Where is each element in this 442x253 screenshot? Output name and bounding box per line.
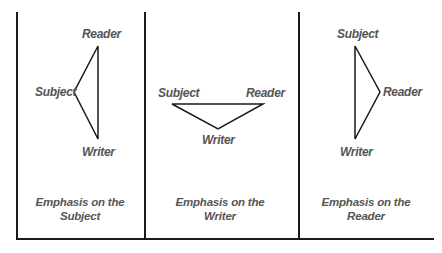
caption-line-1: Emphasis on the [170, 195, 270, 209]
label-writer: Writer [340, 146, 373, 159]
caption-line-2: Writer [170, 209, 270, 223]
label-writer: Writer [202, 134, 235, 147]
label-subject: Subject [35, 86, 76, 99]
label-subject: Subject [337, 28, 378, 41]
caption-line-2: Subject [30, 209, 130, 223]
label-reader: Reader [246, 87, 285, 100]
caption-emphasis-reader: Emphasis on the Reader [316, 195, 416, 223]
caption-line-1: Emphasis on the [30, 195, 130, 209]
caption-emphasis-subject: Emphasis on the Subject [30, 195, 130, 223]
triangle-emphasis-writer [172, 104, 263, 129]
caption-line-1: Emphasis on the [316, 195, 416, 209]
caption-emphasis-writer: Emphasis on the Writer [170, 195, 270, 223]
triangle-emphasis-reader [355, 46, 380, 139]
triangle-emphasis-subject [74, 46, 98, 139]
label-reader: Reader [82, 28, 121, 41]
caption-line-2: Reader [316, 209, 416, 223]
label-writer: Writer [82, 146, 115, 159]
label-reader: Reader [383, 86, 422, 99]
label-subject: Subject [158, 87, 199, 100]
